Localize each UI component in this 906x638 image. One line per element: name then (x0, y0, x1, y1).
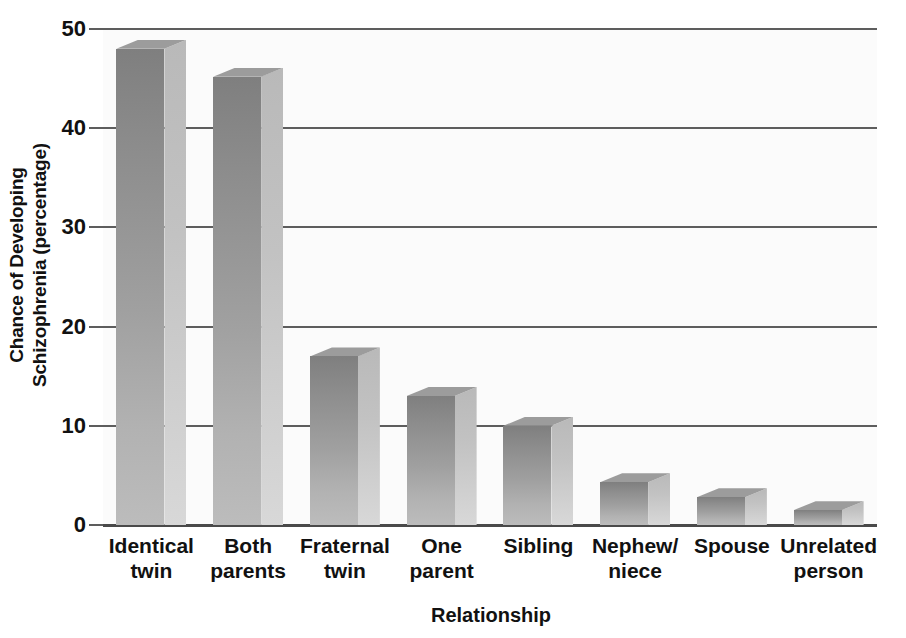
x-axis-category-label: Oneparent (393, 534, 490, 583)
x-axis-category-label-line: Sibling (490, 534, 587, 559)
bar (407, 387, 477, 525)
y-axis-tick-label: 20 (42, 316, 86, 338)
bar-front-face (697, 497, 745, 525)
x-axis-category-label-line: person (780, 559, 877, 584)
bar (116, 40, 186, 525)
x-axis-category-label-line: Nephew/ (587, 534, 684, 559)
bar-side-face (455, 387, 477, 525)
x-axis-category-label: Bothparents (200, 534, 297, 583)
x-axis-category-label: Sibling (490, 534, 587, 559)
x-axis-category-label-line: Unrelated (780, 534, 877, 559)
x-axis-category-label: Identicaltwin (103, 534, 200, 583)
y-axis-tick-label: 40 (42, 117, 86, 139)
x-axis-category-label: Nephew/niece (587, 534, 684, 583)
y-axis-tick-labels: 01020304050 (38, 0, 86, 638)
y-axis-tick-label: 10 (42, 415, 86, 437)
x-axis-category-labels: IdenticaltwinBothparentsFraternaltwinOne… (103, 534, 877, 596)
x-axis-category-label: Fraternaltwin (297, 534, 394, 583)
x-axis-category-label: Spouse (684, 534, 781, 559)
y-axis-tick-label: 30 (42, 216, 86, 238)
x-axis-title: Relationship (0, 604, 906, 627)
bar-front-face (213, 77, 261, 525)
bar (503, 417, 573, 525)
y-axis-tick-mark (89, 326, 103, 328)
bar (310, 347, 380, 525)
bar-side-face (358, 347, 380, 525)
bar-side-face (551, 417, 573, 525)
y-axis-tick-mark (89, 226, 103, 228)
x-axis-category-label-line: Fraternal (297, 534, 394, 559)
gridline (103, 28, 877, 30)
bar (213, 68, 283, 525)
bar-front-face (794, 510, 842, 525)
bar (794, 501, 864, 525)
x-axis-category-label-line: twin (103, 559, 200, 584)
y-axis-title-line-1: Chance of Developing (5, 143, 28, 387)
bar-front-face (600, 482, 648, 525)
bar (600, 473, 670, 525)
x-axis-category-label-line: twin (297, 559, 394, 584)
bar-side-face (261, 68, 283, 525)
y-axis-tick-label: 50 (42, 18, 86, 40)
bar-front-face (116, 49, 164, 525)
bar-side-face (648, 473, 670, 525)
plot-area (103, 29, 877, 525)
bar (697, 488, 767, 525)
y-axis-tick-mark (89, 425, 103, 427)
x-axis-category-label-line: parent (393, 559, 490, 584)
bar-chart-figure: Chance of Developing Schizophrenia (perc… (0, 0, 906, 638)
y-axis-tick-mark (89, 524, 103, 526)
x-axis-category-label-line: parents (200, 559, 297, 584)
bar-front-face (407, 396, 455, 525)
x-axis-category-label-line: niece (587, 559, 684, 584)
y-axis-tick-mark (89, 28, 103, 30)
bar-side-face (164, 40, 186, 525)
x-axis-category-label-line: Identical (103, 534, 200, 559)
x-axis-category-label-line: Spouse (684, 534, 781, 559)
bar-front-face (310, 356, 358, 525)
x-axis-category-label-line: One (393, 534, 490, 559)
x-axis-category-label: Unrelatedperson (780, 534, 877, 583)
y-axis-tick-label: 0 (42, 514, 86, 536)
x-axis-category-label-line: Both (200, 534, 297, 559)
y-axis-tick-mark (89, 127, 103, 129)
bar-front-face (503, 426, 551, 525)
